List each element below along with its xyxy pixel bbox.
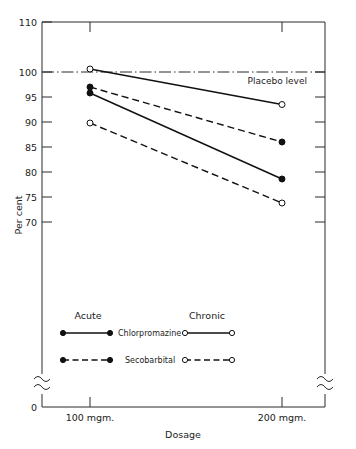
y-tick-label-80: 80 (25, 167, 37, 178)
legend-swatch-acute-chlorpromazine-marker-left (60, 330, 65, 335)
y-tick-label-0: 0 (31, 402, 37, 413)
series-line-acute-chlorpromazine (90, 93, 282, 179)
legend-label-chlorpromazine: Chlorpromazine (118, 329, 181, 338)
legend-label-secobarbital: Secobarbital (125, 356, 175, 365)
y-tick-label-75: 75 (25, 192, 37, 203)
chart-legend: Acute Chronic Chlorpromazine Secobarbita… (60, 310, 234, 365)
x-tick-labels: 100 mgm. 200 mgm. (66, 412, 307, 423)
series-chronic-secobarbital (87, 120, 285, 206)
legend-row-chlorpromazine: Chlorpromazine (60, 329, 234, 338)
series-acute-chlorpromazine (87, 90, 285, 182)
legend-swatch-acute-chlorpromazine-marker-right (107, 330, 112, 335)
x-axis-title: Dosage (165, 429, 201, 440)
datapoint-acute-secobarbital-200mgm (279, 139, 285, 145)
series-line-acute-secobarbital (90, 87, 282, 142)
chart-figure: 110 100 95 90 85 80 75 70 0 100 mgm. 200… (0, 0, 356, 449)
y-tick-label-90: 90 (25, 117, 37, 128)
datapoint-acute-chlorpromazine-200mgm (279, 176, 285, 182)
legend-header-acute: Acute (74, 310, 101, 321)
legend-swatch-chronic-chlorpromazine-marker-right (229, 330, 234, 335)
y-tick-label-100: 100 (19, 67, 37, 78)
legend-swatch-acute-secobarbital-marker-right (107, 357, 112, 362)
y-axis-ticks-right (315, 72, 325, 222)
series-line-chronic-chlorpromazine (90, 69, 282, 105)
y-axis-title: Per cent (13, 195, 24, 234)
datapoint-chronic-chlorpromazine-200mgm (279, 102, 285, 108)
y-axis-ticks (42, 22, 52, 222)
line-chart-svg: 110 100 95 90 85 80 75 70 0 100 mgm. 200… (0, 0, 356, 449)
x-tick-label-100mgm: 100 mgm. (66, 412, 115, 423)
y-tick-label-70: 70 (25, 217, 37, 228)
datapoint-chronic-chlorpromazine-100mgm (87, 66, 93, 72)
x-tick-label-200mgm: 200 mgm. (258, 412, 307, 423)
legend-header-chronic: Chronic (189, 310, 225, 321)
datapoint-acute-chlorpromazine-100mgm (87, 90, 93, 96)
y-tick-label-110: 110 (19, 17, 37, 28)
datapoint-chronic-secobarbital-100mgm (87, 120, 93, 126)
legend-swatch-chronic-chlorpromazine-marker-left (182, 330, 187, 335)
legend-swatch-acute-secobarbital-marker-left (60, 357, 65, 362)
y-axis-break-icon (34, 377, 50, 390)
legend-swatch-chronic-secobarbital-marker-left (182, 357, 187, 362)
y-tick-label-85: 85 (25, 142, 37, 153)
x-axis-break-icon (317, 377, 333, 390)
legend-row-secobarbital: Secobarbital (60, 356, 234, 365)
legend-swatch-chronic-secobarbital-marker-right (229, 357, 234, 362)
placebo-reference: Placebo level (42, 72, 325, 86)
datapoint-chronic-secobarbital-200mgm (279, 200, 285, 206)
datapoint-acute-secobarbital-100mgm (87, 84, 93, 90)
placebo-level-label: Placebo level (248, 76, 307, 86)
series-line-chronic-secobarbital (90, 123, 282, 203)
y-tick-label-95: 95 (25, 92, 37, 103)
